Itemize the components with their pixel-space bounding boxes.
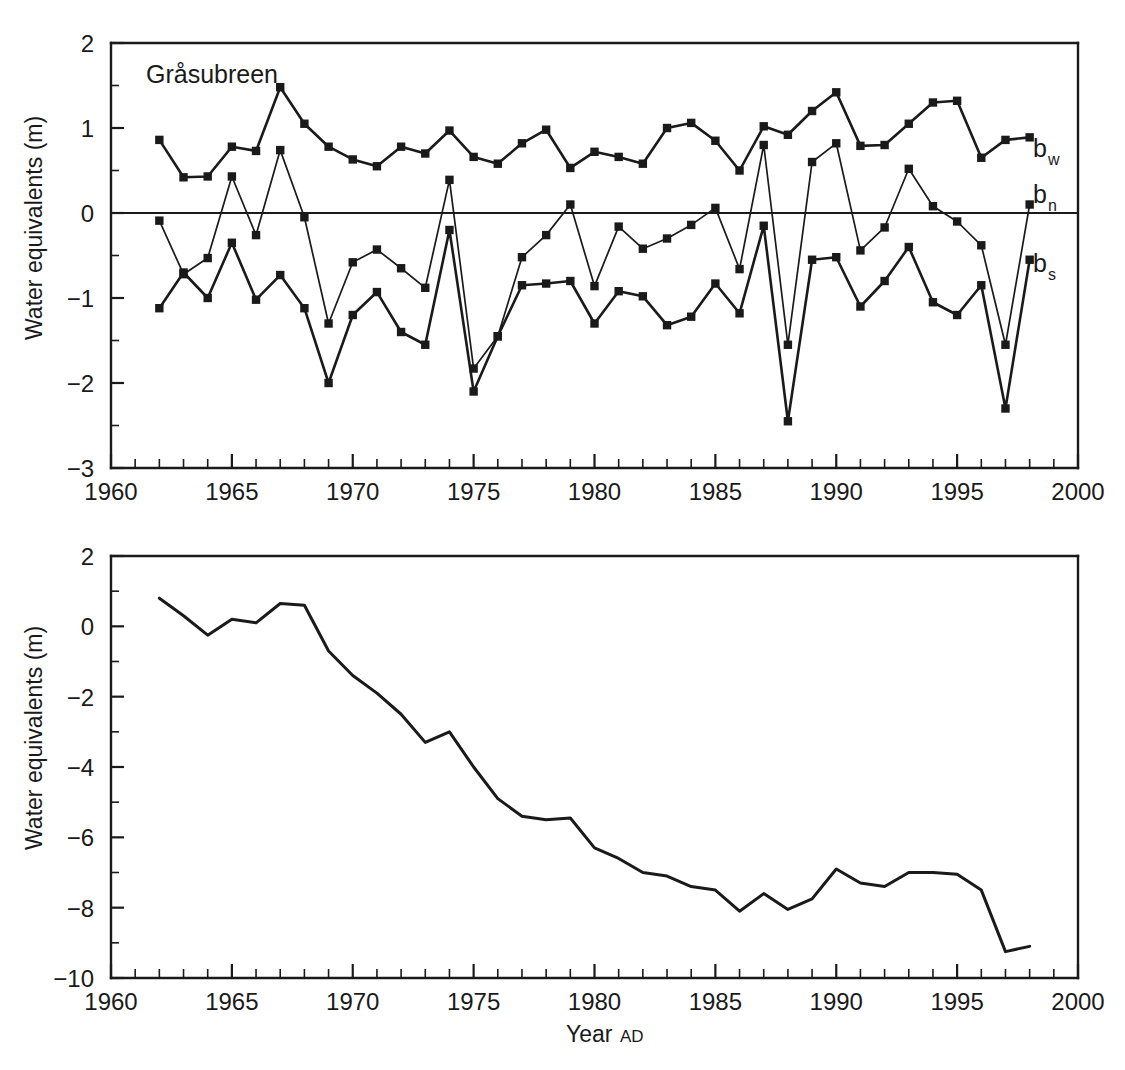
data-point-marker [1001, 136, 1009, 144]
data-point-marker [300, 213, 308, 221]
data-point-marker [590, 282, 598, 290]
data-point-marker [832, 139, 840, 147]
y-tick-label: −2 [67, 684, 94, 711]
bottom-chart-y-axis-title: Water equivalents (m) [21, 626, 47, 850]
series-label-bw: b w [1033, 134, 1060, 168]
top-chart-x-ticks [111, 454, 1078, 468]
data-point-marker [953, 97, 961, 105]
data-point-marker [373, 288, 381, 296]
y-tick-label: −2 [67, 370, 94, 397]
data-point-marker [204, 254, 212, 262]
data-point-marker [542, 279, 550, 287]
data-point-marker [324, 319, 332, 327]
data-point-marker [252, 231, 260, 239]
top-chart-x-tick-labels: 196019651970197519801985199019952000 [84, 478, 1104, 505]
y-tick-label: 0 [81, 613, 94, 640]
bottom-chart-x-axis-title-main: Year [566, 1021, 613, 1047]
data-point-marker [639, 160, 647, 168]
data-point-marker [735, 309, 743, 317]
data-point-marker [324, 143, 332, 151]
data-point-marker [760, 122, 768, 130]
x-tick-label: 1970 [326, 988, 379, 1015]
top-chart-series-group [155, 83, 1034, 425]
series-label-bs: b s [1033, 249, 1056, 283]
data-point-marker [566, 200, 574, 208]
data-point-marker [663, 321, 671, 329]
data-point-marker [856, 246, 864, 254]
data-point-marker [155, 216, 163, 224]
data-point-marker [977, 241, 985, 249]
bottom-chart-y-tick-labels: 20−2−4−6−8−10 [53, 543, 94, 992]
data-point-marker [711, 137, 719, 145]
data-point-marker [760, 141, 768, 149]
data-point-marker [228, 143, 236, 151]
x-tick-label: 1975 [447, 478, 500, 505]
data-point-marker [469, 153, 477, 161]
series-line-cumulative_net_balance [159, 598, 1029, 951]
data-point-marker [614, 287, 622, 295]
data-point-marker [735, 265, 743, 273]
series-line-b_n [159, 143, 1029, 368]
data-point-marker [614, 153, 622, 161]
data-point-marker [711, 279, 719, 287]
y-tick-label: 0 [81, 200, 94, 227]
data-point-marker [590, 319, 598, 327]
series-label-bs-text: b [1033, 249, 1047, 277]
data-point-marker [832, 253, 840, 261]
data-point-marker [929, 98, 937, 106]
x-tick-label: 1970 [326, 478, 379, 505]
data-point-marker [494, 160, 502, 168]
y-tick-label: −6 [67, 824, 94, 851]
data-point-marker [639, 292, 647, 300]
data-point-marker [179, 173, 187, 181]
data-point-marker [397, 264, 405, 272]
data-point-marker [518, 253, 526, 261]
data-point-marker [421, 149, 429, 157]
series-label-bw-text: b [1033, 134, 1047, 162]
data-point-marker [445, 176, 453, 184]
y-tick-label: −8 [67, 895, 94, 922]
data-point-marker [228, 172, 236, 180]
data-point-marker [1001, 341, 1009, 349]
data-point-marker [349, 311, 357, 319]
data-point-marker [397, 328, 405, 336]
x-tick-label: 1985 [689, 478, 742, 505]
cumulative-mass-balance-chart: 20−2−4−6−8−10 19601965197019751980198519… [21, 543, 1105, 1047]
data-point-marker [663, 234, 671, 242]
data-point-marker [687, 221, 695, 229]
data-point-marker [905, 243, 913, 251]
data-point-marker [518, 281, 526, 289]
x-tick-label: 1990 [810, 478, 863, 505]
top-chart-y-tick-labels: 210−1−2−3 [67, 30, 94, 482]
data-point-marker [905, 165, 913, 173]
data-point-marker [760, 222, 768, 230]
x-tick-label: 1960 [84, 988, 137, 1015]
data-point-marker [977, 281, 985, 289]
data-point-marker [1001, 404, 1009, 412]
data-point-marker [300, 304, 308, 312]
data-point-marker [639, 245, 647, 253]
x-tick-label: 1990 [810, 988, 863, 1015]
bottom-chart-x-ticks [111, 964, 1078, 978]
x-tick-label: 1965 [205, 478, 258, 505]
data-point-marker [155, 304, 163, 312]
figure-container: 210−1−2−3 196019651970197519801985199019… [0, 0, 1125, 1070]
data-point-marker [808, 107, 816, 115]
bottom-chart-x-axis-title: Year AD [566, 1021, 644, 1047]
x-tick-label: 1975 [447, 988, 500, 1015]
series-label-bn-text: b [1033, 180, 1047, 208]
x-tick-label: 1995 [930, 988, 983, 1015]
data-point-marker [929, 298, 937, 306]
bottom-chart-series-group [159, 598, 1029, 951]
data-point-marker [784, 417, 792, 425]
data-point-marker [494, 332, 502, 340]
data-point-marker [784, 341, 792, 349]
data-point-marker [808, 158, 816, 166]
x-tick-label: 1965 [205, 988, 258, 1015]
chart-title: Gråsubreen [146, 60, 278, 88]
x-tick-label: 2000 [1051, 478, 1104, 505]
data-point-marker [953, 311, 961, 319]
top-chart-y-ticks [111, 43, 124, 468]
data-point-marker [953, 217, 961, 225]
y-tick-label: 2 [81, 30, 94, 57]
